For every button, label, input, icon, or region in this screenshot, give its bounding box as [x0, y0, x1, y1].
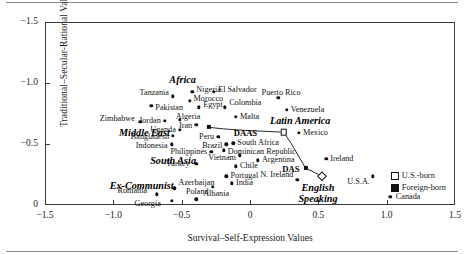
- data-point: [170, 143, 173, 146]
- data-point-label: Georgia: [135, 200, 161, 208]
- data-point: [285, 108, 288, 111]
- data-point: [216, 135, 219, 138]
- data-point-label: Chile: [240, 162, 258, 170]
- y-tick-label: −1.0: [6, 77, 38, 87]
- data-point: [234, 115, 237, 118]
- data-point: [195, 123, 198, 126]
- y-tick-label: −0.5: [6, 138, 38, 148]
- data-point-label: Ireland: [330, 155, 353, 163]
- data-point-label: U.S.A.: [347, 178, 370, 186]
- data-point-label: Indonesia: [136, 142, 168, 150]
- foreign-born-marker: [207, 125, 211, 129]
- data-point-label: Brazil: [202, 142, 222, 150]
- foreign-born-marker: [304, 166, 308, 170]
- y-tick-label: 0: [6, 199, 38, 209]
- data-point-label: Peru: [199, 133, 214, 141]
- data-point-label: Tanzania: [140, 89, 169, 97]
- open-square-icon: [391, 172, 399, 180]
- data-point: [225, 143, 228, 146]
- data-point: [234, 165, 237, 168]
- region-label: Latin America: [270, 115, 330, 126]
- x-tick-label: 1.0: [367, 210, 407, 220]
- data-point: [371, 174, 374, 177]
- page-rule-top: [6, 2, 458, 3]
- data-point: [223, 105, 226, 108]
- data-point: [232, 141, 235, 144]
- data-point: [324, 157, 327, 160]
- x-tick-label: −1.5: [25, 210, 65, 220]
- region-label: South Asia: [150, 156, 196, 167]
- chart-root: Traditional–Secular-Rational Values Surv…: [0, 0, 464, 255]
- data-point: [222, 149, 225, 152]
- data-point-label: Venezuela: [291, 106, 325, 114]
- data-point: [188, 99, 191, 102]
- data-point: [296, 178, 299, 181]
- region-label: Ex-Communist: [110, 181, 174, 192]
- y-tick-label: −1.5: [6, 16, 38, 26]
- legend-label-us-born: U.S.-born: [402, 170, 435, 182]
- data-point: [150, 104, 153, 107]
- data-point-label: Colombia: [229, 99, 261, 107]
- data-point-label: Zimbabwe: [100, 115, 135, 123]
- data-point: [211, 185, 214, 188]
- data-point-label: Mexico: [303, 129, 328, 137]
- x-tick-label: 1.5: [435, 210, 464, 220]
- region-label: Middle East: [119, 127, 170, 138]
- data-point: [171, 134, 174, 137]
- data-point-label: Argentina: [262, 156, 295, 164]
- data-point: [230, 182, 233, 185]
- data-point-label: South Africa: [237, 139, 279, 147]
- region-label: EnglishSpeaking: [298, 184, 337, 205]
- data-point: [389, 195, 392, 198]
- filled-square-icon: [391, 184, 399, 192]
- plot-area: GeorgiaAlbaniaRomaniaAzerbaijanPolandInd…: [45, 22, 455, 205]
- data-point-label: Jordan: [139, 117, 161, 125]
- survey-group-label-das: DAS: [282, 164, 299, 174]
- data-point-label: Portugal: [231, 172, 259, 180]
- survey-group-label-daas: DAAS: [234, 128, 257, 138]
- us-born-marker: [281, 129, 288, 136]
- data-point: [195, 198, 198, 201]
- legend-label-foreign-born: Foreign-born: [402, 182, 446, 194]
- x-axis-label: Survival–Self-Expression Values: [45, 233, 455, 243]
- x-tick-label: 0: [230, 210, 270, 220]
- us-born-marker: [317, 171, 326, 180]
- x-tick-label: −1.0: [93, 210, 133, 220]
- data-point: [163, 119, 166, 122]
- x-tick-label: 0.5: [298, 210, 338, 220]
- data-point: [256, 159, 259, 162]
- page-rule-bottom: [6, 251, 458, 252]
- data-point-label: Morocco: [194, 95, 224, 103]
- data-point-label: Poland: [186, 188, 209, 196]
- data-point-label: El Salvador: [218, 86, 256, 94]
- region-label: Africa: [169, 74, 196, 85]
- data-point-label: Algeria: [176, 113, 201, 121]
- data-point: [297, 131, 300, 134]
- data-point-label: Iran: [179, 122, 192, 130]
- data-point: [171, 94, 174, 97]
- data-point-label: India: [236, 179, 253, 187]
- data-point: [197, 105, 200, 108]
- legend-item-foreign-born: Foreign-born: [391, 182, 446, 194]
- x-tick-label: −0.5: [162, 210, 202, 220]
- data-point: [225, 174, 228, 177]
- data-point: [155, 193, 158, 196]
- data-point-label: Puerto Rico: [262, 89, 301, 97]
- legend-item-us-born: U.S.-born: [391, 170, 446, 182]
- data-point-label: Dominican Republic: [228, 148, 296, 156]
- legend: U.S.-born Foreign-born: [391, 170, 446, 194]
- data-point-label: Pakistan: [155, 104, 183, 112]
- data-point: [170, 199, 173, 202]
- data-point-label: Malta: [240, 113, 259, 121]
